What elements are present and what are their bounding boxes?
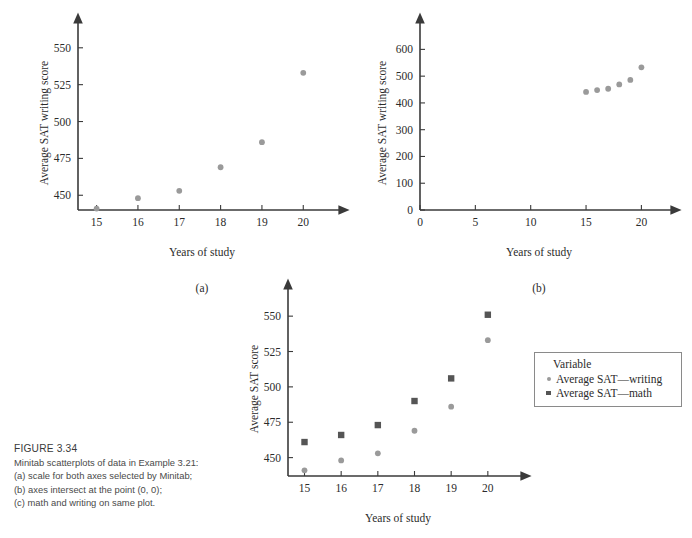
svg-text:100: 100 bbox=[396, 177, 414, 189]
legend-item-writing: Average SAT—writing bbox=[544, 372, 671, 386]
svg-text:Years of study: Years of study bbox=[365, 512, 431, 525]
panel-a: 450475500525550151617181920Years of stud… bbox=[30, 14, 360, 264]
data-point-math bbox=[301, 439, 307, 445]
svg-text:17: 17 bbox=[174, 216, 186, 228]
svg-text:18: 18 bbox=[215, 216, 227, 228]
data-point-math bbox=[375, 422, 381, 428]
svg-text:0: 0 bbox=[407, 204, 413, 216]
svg-text:20: 20 bbox=[636, 216, 648, 228]
svg-text:5: 5 bbox=[472, 216, 478, 228]
caption-line-2: (a) scale for both axes selected by Mini… bbox=[14, 469, 239, 482]
svg-text:(a): (a) bbox=[196, 282, 209, 295]
data-point-writing bbox=[218, 164, 224, 170]
data-point-math bbox=[448, 375, 454, 381]
legend-title: Variable bbox=[553, 358, 671, 371]
svg-text:10: 10 bbox=[525, 216, 537, 228]
scatterplot-b: 010020030040050060005101520Years of stud… bbox=[368, 14, 688, 264]
data-point-writing bbox=[594, 87, 600, 93]
data-point-writing bbox=[375, 450, 381, 456]
data-point-writing bbox=[485, 337, 491, 343]
data-point-writing bbox=[338, 458, 344, 464]
svg-text:600: 600 bbox=[396, 43, 414, 55]
svg-text:16: 16 bbox=[132, 216, 144, 228]
svg-text:20: 20 bbox=[482, 482, 494, 494]
panel-b: 010020030040050060005101520Years of stud… bbox=[368, 14, 688, 264]
legend-label-math: Average SAT—math bbox=[556, 386, 652, 400]
scatterplot-a: 450475500525550151617181920Years of stud… bbox=[30, 14, 360, 264]
svg-text:19: 19 bbox=[445, 482, 457, 494]
caption-line-1: Minitab scatterplots of data in Example … bbox=[14, 456, 239, 469]
data-point-writing bbox=[627, 77, 633, 83]
caption-line-4: (c) math and writing on same plot. bbox=[14, 496, 239, 509]
legend: Variable Average SAT—writing Average SAT… bbox=[534, 352, 682, 407]
svg-text:400: 400 bbox=[396, 97, 414, 109]
svg-text:19: 19 bbox=[256, 216, 268, 228]
data-point-math bbox=[485, 312, 491, 318]
data-point-math bbox=[411, 398, 417, 404]
svg-text:475: 475 bbox=[54, 152, 72, 164]
data-point-writing bbox=[135, 195, 141, 201]
data-point-writing bbox=[605, 86, 611, 92]
svg-text:15: 15 bbox=[91, 216, 103, 228]
svg-text:15: 15 bbox=[580, 216, 592, 228]
data-point-writing bbox=[300, 70, 306, 76]
svg-text:20: 20 bbox=[298, 216, 310, 228]
square-marker-icon bbox=[544, 391, 553, 396]
svg-text:500: 500 bbox=[264, 381, 282, 393]
svg-text:18: 18 bbox=[409, 482, 421, 494]
legend-item-math: Average SAT—math bbox=[544, 386, 671, 400]
svg-text:525: 525 bbox=[264, 346, 282, 358]
svg-text:500: 500 bbox=[396, 70, 414, 82]
svg-text:550: 550 bbox=[54, 42, 72, 54]
svg-text:16: 16 bbox=[335, 482, 347, 494]
data-point-writing bbox=[259, 139, 265, 145]
caption-line-3: (b) axes intersect at the point (0, 0); bbox=[14, 483, 239, 496]
circle-marker-icon bbox=[544, 377, 553, 381]
svg-text:Years of study: Years of study bbox=[169, 246, 235, 259]
data-point-math bbox=[338, 432, 344, 438]
svg-text:475: 475 bbox=[264, 416, 282, 428]
data-point-writing bbox=[638, 64, 644, 70]
svg-text:300: 300 bbox=[396, 124, 414, 136]
figure-caption: FIGURE 3.34 Minitab scatterplots of data… bbox=[14, 442, 239, 509]
svg-text:17: 17 bbox=[372, 482, 384, 494]
panel-c: 450475500525550151617181920Years of stud… bbox=[240, 280, 530, 530]
data-point-writing bbox=[583, 89, 589, 95]
data-point-writing bbox=[94, 206, 100, 212]
svg-text:15: 15 bbox=[299, 482, 311, 494]
svg-text:Average SAT writing score: Average SAT writing score bbox=[376, 61, 389, 185]
svg-text:Years of study: Years of study bbox=[506, 246, 572, 259]
svg-text:550: 550 bbox=[264, 310, 282, 322]
svg-text:0: 0 bbox=[417, 216, 423, 228]
scatterplot-c: 450475500525550151617181920Years of stud… bbox=[240, 280, 530, 530]
svg-text:450: 450 bbox=[264, 452, 282, 464]
svg-text:Average SAT score: Average SAT score bbox=[248, 345, 261, 433]
svg-text:(b): (b) bbox=[532, 282, 546, 295]
data-point-writing bbox=[448, 404, 454, 410]
data-point-writing bbox=[412, 428, 418, 434]
svg-text:450: 450 bbox=[54, 189, 72, 201]
data-point-writing bbox=[302, 467, 308, 473]
svg-text:500: 500 bbox=[54, 116, 72, 128]
svg-text:200: 200 bbox=[396, 150, 414, 162]
figure-label: FIGURE 3.34 bbox=[14, 442, 239, 455]
svg-text:525: 525 bbox=[54, 79, 72, 91]
legend-label-writing: Average SAT—writing bbox=[556, 372, 662, 386]
svg-text:Average SAT writing score: Average SAT writing score bbox=[38, 61, 51, 185]
data-point-writing bbox=[616, 82, 622, 88]
data-point-writing bbox=[176, 188, 182, 194]
